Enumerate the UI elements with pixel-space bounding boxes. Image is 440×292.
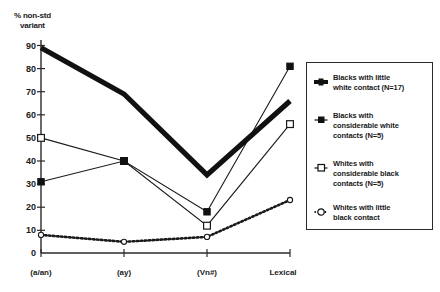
legend-line2: considerable black [333, 169, 399, 178]
legend-line2: considerable white [333, 121, 399, 130]
legend-label-whites-little-black-contact: Whites with little black contact [333, 203, 390, 223]
open-circle-marker-icon [313, 204, 329, 216]
legend-line2: white contact (N=17) [333, 83, 404, 92]
series-whites-little-black-contact-line [41, 200, 290, 242]
legend-label-whites-considerable-black-contacts: Whites with considerable black contacts … [333, 159, 399, 189]
filled-square-marker-icon [313, 112, 329, 124]
legend-line1: Blacks with [333, 111, 373, 120]
legend-line2: black contact [333, 213, 380, 222]
series-blacks-considerable-white-contacts-line [41, 66, 290, 212]
legend: Blacks with little white contact (N=17) … [306, 62, 433, 230]
thick-bar-marker-icon [313, 74, 329, 86]
legend-item-blacks-little-white-contact: Blacks with little white contact (N=17) [313, 73, 431, 93]
legend-line1: Whites with little [333, 203, 390, 212]
legend-label-blacks-considerable-white-contacts: Blacks with considerable white contacts … [333, 111, 399, 141]
chart-figure: % non-std variant 90 80 70 60 50 40 30 2… [0, 0, 440, 292]
legend-item-whites-considerable-black-contacts: Whites with considerable black contacts … [313, 159, 431, 189]
legend-line1: Blacks with little [333, 73, 390, 82]
legend-line1: Whites with [333, 159, 374, 168]
legend-line3: contacts (N=5) [333, 179, 384, 188]
legend-line3: contacts (N=5) [333, 131, 384, 140]
legend-item-blacks-considerable-white-contacts: Blacks with considerable white contacts … [313, 111, 431, 141]
series-blacks-little-white-contact-line [41, 48, 290, 175]
legend-label-blacks-little-white-contact: Blacks with little white contact (N=17) [333, 73, 404, 93]
open-square-marker-icon [313, 160, 329, 172]
series-blacks-considerable-white-contacts-markers [38, 63, 293, 215]
legend-item-whites-little-black-contact: Whites with little black contact [313, 203, 431, 223]
series-whites-considerable-black-contacts-line [41, 124, 290, 226]
